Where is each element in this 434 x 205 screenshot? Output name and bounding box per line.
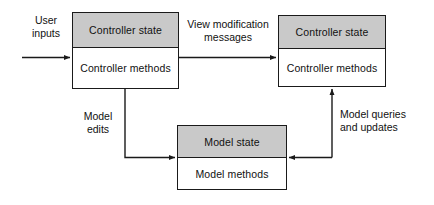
model-box: Model state Model methods (177, 125, 287, 190)
connector-model-edits (125, 89, 175, 158)
mvc-diagram: Controller state Controller methods Cont… (0, 0, 434, 205)
edge-label-user-inputs: User inputs (22, 14, 70, 40)
controller-right-methods-label: Controller methods (279, 49, 385, 86)
controller-box-right: Controller state Controller methods (278, 15, 386, 87)
model-methods-label: Model methods (178, 158, 286, 189)
model-state-label: Model state (178, 126, 286, 158)
controller-right-state-label: Controller state (279, 16, 385, 49)
controller-box-left: Controller state Controller methods (72, 12, 179, 89)
controller-left-methods-label: Controller methods (73, 48, 178, 88)
controller-left-state-label: Controller state (73, 13, 178, 48)
edge-label-model-edits: Model edits (74, 110, 122, 136)
edge-label-view-modification-messages: View modification messages (181, 18, 275, 44)
edge-label-model-queries-and-updates: Model queries and updates (340, 108, 432, 134)
